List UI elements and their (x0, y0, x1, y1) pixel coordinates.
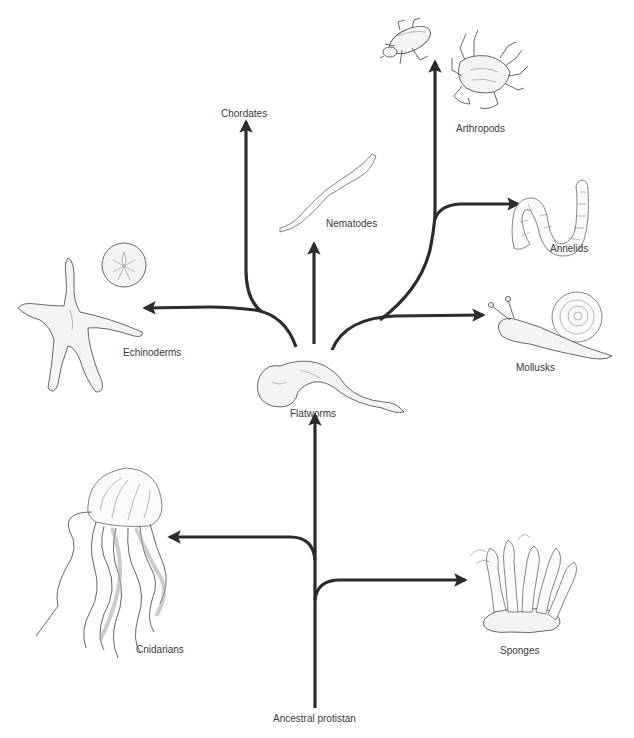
branch-arthropods-stem (380, 62, 435, 320)
jellyfish-illustration (36, 468, 166, 658)
flatworm-illustration (258, 361, 405, 412)
label-arthropods: Arthropods (456, 123, 505, 134)
branch-cnidarians (170, 537, 315, 560)
label-sponges: Sponges (500, 645, 539, 656)
sponge-illustration (470, 534, 577, 632)
branch-chordates (246, 122, 262, 312)
branch-sponges (315, 580, 465, 600)
label-ancestral-protistan: Ancestral protistan (273, 713, 356, 724)
sand-dollar-illustration (102, 243, 146, 287)
label-mollusks: Mollusks (516, 362, 555, 373)
snail-illustration (489, 292, 613, 359)
branch-mollusks (332, 315, 483, 350)
label-annelids: Annelids (550, 243, 588, 254)
label-cnidarians: Cnidarians (136, 644, 184, 655)
crab-illustration (452, 30, 528, 109)
branch-echinoderms (145, 307, 296, 347)
beetle-illustration (380, 18, 435, 64)
label-nematodes: Nematodes (326, 218, 377, 229)
label-flatworms: Flatworms (290, 408, 336, 419)
label-chordates: Chordates (221, 108, 267, 119)
label-echinoderms: Echinoderms (123, 347, 181, 358)
branch-annelids (435, 204, 518, 219)
